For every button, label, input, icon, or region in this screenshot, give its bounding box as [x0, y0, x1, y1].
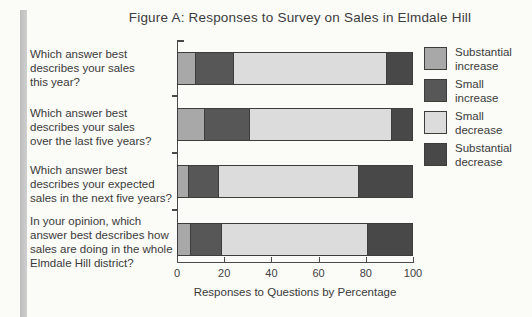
bar-segment	[359, 165, 413, 198]
bar-segment	[177, 165, 189, 198]
legend-label: Small increase	[455, 78, 498, 105]
bar-segment	[392, 108, 413, 141]
legend-swatch-small-increase	[424, 79, 447, 102]
x-tick-mark	[319, 257, 320, 263]
page-margin-strip	[20, 10, 27, 317]
bar-row-3	[177, 165, 413, 198]
chart-title: Figure A: Responses to Survey on Sales i…	[90, 10, 510, 25]
bar-segment	[177, 52, 196, 85]
bar-segment	[205, 108, 250, 141]
bar-segment	[219, 165, 358, 198]
x-tick-label: 0	[174, 267, 180, 279]
legend-item-small-increase: Small increase	[424, 78, 528, 105]
bar-segment	[234, 52, 387, 85]
x-tick-label: 80	[360, 267, 372, 279]
legend: Substantial increase Small increase Smal…	[424, 46, 528, 174]
legend-label: Small decrease	[455, 110, 502, 137]
legend-swatch-substantial-increase	[424, 47, 447, 70]
x-axis-ticks: 020406080100	[177, 262, 413, 263]
bar-segment	[189, 165, 220, 198]
x-tick-label: 40	[265, 267, 277, 279]
plot-area: 020406080100	[177, 40, 413, 263]
bar-segment	[368, 223, 413, 256]
bar-segment	[191, 223, 222, 256]
legend-label: Substantial increase	[455, 46, 512, 73]
y-axis-tick	[172, 95, 177, 97]
bar-segment	[222, 223, 368, 256]
figure-panel: Figure A: Responses to Survey on Sales i…	[0, 0, 532, 317]
x-tick-label: 60	[312, 267, 324, 279]
x-tick-mark	[413, 257, 414, 263]
y-axis-tick	[172, 152, 177, 154]
bar-row-4	[177, 223, 413, 256]
x-tick-mark	[271, 257, 272, 263]
x-tick-label: 100	[404, 267, 422, 279]
bar-row-1	[177, 52, 413, 85]
bar-segment	[196, 52, 234, 85]
bar-segment	[250, 108, 392, 141]
x-tick-mark	[177, 257, 178, 263]
x-tick-mark	[366, 257, 367, 263]
legend-label: Substantial decrease	[455, 142, 512, 169]
bar-segment	[387, 52, 413, 85]
legend-swatch-small-decrease	[424, 111, 447, 134]
bar-segment	[177, 223, 191, 256]
x-tick-mark	[224, 257, 225, 263]
x-axis-label: Responses to Questions by Percentage	[155, 286, 435, 298]
legend-swatch-substantial-decrease	[424, 143, 447, 166]
y-axis-top-tick	[177, 40, 184, 42]
x-tick-label: 20	[218, 267, 230, 279]
bar-segment	[177, 108, 205, 141]
legend-item-substantial-increase: Substantial increase	[424, 46, 528, 73]
bar-row-2	[177, 108, 413, 141]
legend-item-substantial-decrease: Substantial decrease	[424, 142, 528, 169]
y-axis-tick	[172, 209, 177, 211]
legend-item-small-decrease: Small decrease	[424, 110, 528, 137]
